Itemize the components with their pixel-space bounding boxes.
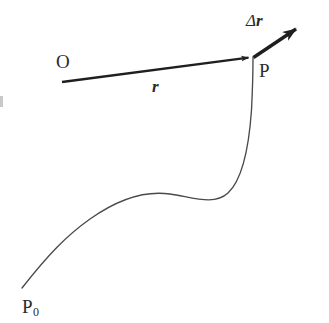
displacement-vector-label: Δr [246,12,263,29]
position-vector-label: r [152,78,159,95]
vector-diagram-svg [0,0,329,323]
origin-label: O [56,52,70,71]
trajectory-curve [22,57,253,288]
point-p-label: P [259,61,270,80]
delta-symbol: Δ [246,11,256,30]
start-point-subscript: 0 [33,305,39,319]
start-point-p0-label: P0 [22,297,39,318]
displacement-vector-r-symbol: r [256,11,263,30]
start-point-base-text: P [22,296,33,317]
displacement-vector-delta-r-arrow [254,29,297,58]
figure-canvas: O P P0 r Δr [0,0,329,323]
